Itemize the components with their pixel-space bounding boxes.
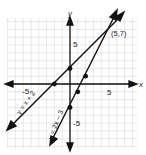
point-1-neg1 [75, 89, 80, 94]
point-0-2 [68, 66, 73, 71]
y-tick-label-neg5: -5 [73, 119, 81, 128]
point-0-neg3 [68, 105, 73, 110]
x-axis-arrow-left [5, 81, 13, 87]
y-axis-arrow-up [67, 17, 73, 25]
x-axis-arrow-right [129, 81, 137, 87]
point-neg2-0 [52, 82, 57, 87]
intersection-label: (5,7) [111, 29, 127, 38]
x-tick-label-5: 5 [107, 88, 112, 97]
point-2-1 [83, 74, 88, 79]
y-axis-label: y [67, 9, 73, 18]
y-axis-arrow-down [67, 143, 73, 151]
coordinate-plane: x y -5 5 5 -5 (5,7) y = x + 2 y = 2x − 3 [0, 0, 146, 155]
y-tick-label-5: 5 [73, 40, 78, 49]
arrow-head [110, 10, 117, 20]
line2-label: y = 2x − 3 [46, 109, 65, 141]
x-axis-label: x [138, 80, 144, 89]
